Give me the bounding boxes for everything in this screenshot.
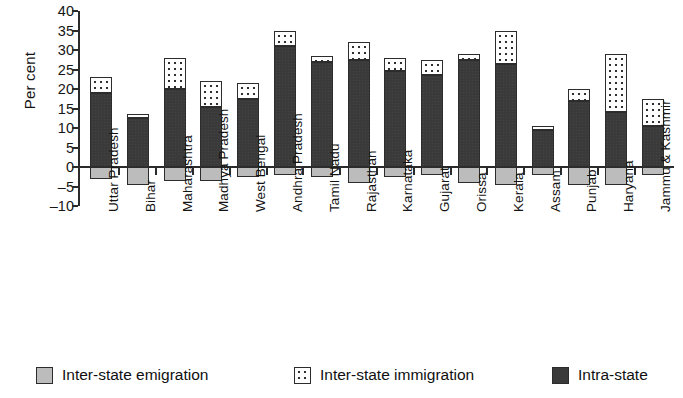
x-axis-category-label: Uttar Pradesh: [106, 127, 121, 212]
legend-item: Inter-state emigration: [36, 364, 208, 386]
x-axis-category-label: West Bengal: [253, 135, 268, 212]
x-axis-category-label: Andhra Pradesh: [290, 113, 305, 212]
intrastate-swatch: [552, 367, 569, 384]
y-axis-tick-mark: [72, 10, 78, 12]
y-axis-tick-mark: [72, 205, 78, 207]
bar-segment-inter-state-immigration: [90, 77, 112, 93]
bar-segment-inter-state-immigration: [384, 58, 406, 72]
x-axis-category-label: Tamil Nadu: [327, 143, 342, 212]
y-axis-tick-mark: [72, 49, 78, 51]
x-axis-category-label: Kerala: [511, 172, 526, 212]
bar-segment-inter-state-immigration: [274, 31, 296, 47]
bar-segment-inter-state-immigration: [348, 42, 370, 60]
y-axis-tick-label: 25: [34, 63, 74, 78]
bar-segment-inter-state-immigration: [532, 126, 554, 130]
bar-segment-inter-state-immigration: [237, 83, 259, 99]
y-axis-tick-label: 20: [34, 82, 74, 97]
bar-segment-intra-state: [495, 64, 517, 167]
y-axis-tick-label: 35: [34, 24, 74, 39]
bar-segment-intra-state: [421, 75, 443, 167]
x-axis-category-label: Haryana: [621, 160, 636, 212]
x-axis-tick-mark: [155, 168, 157, 175]
y-axis-tick-label: 30: [34, 43, 74, 58]
bar-segment-intra-state: [458, 60, 480, 167]
y-axis-line: [78, 11, 80, 206]
bar-segment-inter-state-immigration: [311, 56, 333, 62]
x-axis-category-label: Bihar: [143, 180, 158, 212]
y-axis-tick-label: 0: [34, 160, 74, 175]
immigration-swatch: [294, 367, 311, 384]
x-axis-category-label: Gujarat: [437, 167, 452, 212]
bar-segment-inter-state-immigration: [200, 81, 222, 106]
bar-segment-inter-state-immigration: [127, 114, 149, 118]
legend-label: Inter-state emigration: [62, 366, 208, 384]
x-axis-category-label: Rajasthan: [364, 150, 379, 212]
bar-segment-intra-state: [532, 130, 554, 167]
y-axis-tick-mark: [72, 147, 78, 149]
bar-segment-inter-state-immigration: [164, 58, 186, 89]
y-axis-tick-mark: [72, 127, 78, 129]
legend-label: Intra-state: [578, 366, 648, 384]
y-axis-tick-label: –10: [34, 199, 74, 214]
bar-segment-intra-state: [127, 118, 149, 167]
y-axis-tick-mark: [72, 30, 78, 32]
y-axis-tick-label: 40: [34, 4, 74, 19]
legend-item: Inter-state immigration: [294, 364, 474, 386]
bar-segment-intra-state: [605, 112, 627, 167]
x-axis-category-label: Assam: [548, 170, 563, 212]
y-axis-title: Per cent: [21, 26, 38, 136]
x-axis-category-label: Maharashtra: [180, 135, 195, 212]
bar-segment-inter-state-immigration: [495, 31, 517, 64]
y-axis-tick-label: 10: [34, 121, 74, 136]
x-axis-category-label: Madhya Pradesh: [216, 109, 231, 212]
x-axis-category-label: Orissa: [474, 172, 489, 212]
y-axis-tick-mark: [72, 108, 78, 110]
y-axis-tick-label: 5: [34, 141, 74, 156]
chart-legend: Inter-state emigrationInter-state immigr…: [36, 364, 672, 388]
y-axis-tick-mark: [72, 186, 78, 188]
emigration-swatch: [36, 367, 53, 384]
x-axis-category-label: Karnataka: [400, 150, 415, 212]
y-axis-tick-label: 15: [34, 102, 74, 117]
y-axis-tick-mark: [72, 166, 78, 168]
bar-segment-inter-state-immigration: [458, 54, 480, 60]
y-axis-tick-mark: [72, 69, 78, 71]
y-axis-tick-label: –5: [34, 180, 74, 195]
bar-segment-intra-state: [568, 101, 590, 167]
legend-label: Inter-state immigration: [320, 366, 474, 384]
bar-segment-inter-state-immigration: [568, 89, 590, 101]
bar-segment-inter-state-immigration: [605, 54, 627, 113]
bar-group: [127, 11, 149, 206]
x-axis-category-label: Jammu & Kashmir: [658, 100, 673, 212]
y-axis-tick-mark: [72, 88, 78, 90]
x-axis-category-label: Punjab: [584, 169, 599, 212]
bar-segment-inter-state-immigration: [421, 60, 443, 76]
migration-stacked-bar-chart: Per cent 4035302520151050–5–10 Uttar Pra…: [0, 0, 683, 398]
legend-item: Intra-state: [552, 364, 648, 386]
